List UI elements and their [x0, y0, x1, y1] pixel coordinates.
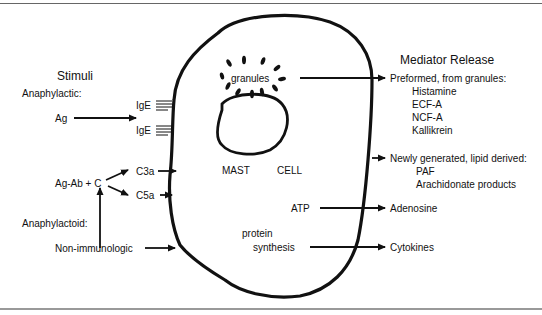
ag-label: Ag — [55, 113, 67, 124]
mediator-ecf-a: ECF-A — [412, 99, 442, 110]
newly-generated-label: Newly generated, lipid derived: — [390, 153, 527, 164]
mediator-ncf-a: NCF-A — [412, 112, 443, 123]
anaphylactoid-label: Anaphylactoid: — [22, 218, 88, 229]
ige-receptor-lines — [156, 101, 172, 135]
cytokines-label: Cytokines — [390, 242, 434, 253]
arrow-c-to-c3a — [106, 170, 128, 180]
stimuli-title: Stimuli — [57, 70, 93, 83]
atp-label: ATP — [291, 203, 310, 214]
ige-label-1: IgE — [136, 100, 151, 111]
non-immunologic-label: Non-immunologic — [55, 243, 133, 254]
synthesis-label: synthesis — [253, 242, 295, 253]
ige-label-2: IgE — [136, 125, 151, 136]
cell-label: CELL — [277, 165, 302, 176]
granules-label: granules — [231, 73, 269, 84]
preformed-label: Preformed, from granules: — [390, 73, 506, 84]
mast-label: MAST — [222, 165, 250, 176]
mediator-kallikrein: Kallikrein — [412, 125, 453, 136]
cell-membrane — [169, 16, 372, 298]
protein-label: protein — [242, 228, 273, 239]
ag-ab-c-label: Ag-Ab + C — [55, 178, 101, 189]
mediator-arachidonate: Arachidonate products — [416, 179, 516, 190]
c5a-label: C5a — [136, 190, 154, 201]
nucleus — [217, 94, 287, 154]
arrow-c-to-c5a — [108, 186, 128, 195]
anaphylactic-label: Anaphylactic: — [22, 88, 81, 99]
c3a-label: C3a — [136, 166, 154, 177]
adenosine-label: Adenosine — [390, 203, 437, 214]
mediator-paf: PAF — [416, 166, 435, 177]
mediator-histamine: Histamine — [412, 86, 456, 97]
mediator-title: Mediator Release — [400, 54, 494, 67]
